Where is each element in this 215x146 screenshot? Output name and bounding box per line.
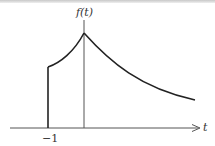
decaying-curve <box>84 33 195 100</box>
function-plot: f(t) t −1 <box>0 0 215 146</box>
y-axis-label: f(t) <box>75 6 93 19</box>
tick-label-minus-one: −1 <box>42 132 58 145</box>
x-axis-label: t <box>203 121 208 134</box>
rising-curve <box>48 33 84 67</box>
